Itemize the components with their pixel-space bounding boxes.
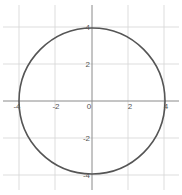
- y-tick: 4: [86, 23, 91, 32]
- grid: [3, 5, 179, 190]
- circle-plot: -4 -2 0 2 4 4 2 -2 -4: [0, 0, 182, 195]
- x-tick: 2: [128, 102, 133, 111]
- y-tick: -2: [83, 134, 91, 143]
- x-tick: 4: [164, 102, 169, 111]
- x-tick: -2: [52, 102, 60, 111]
- y-tick: 2: [86, 60, 91, 69]
- x-tick: 0: [87, 102, 92, 111]
- axes: [3, 5, 179, 190]
- x-tick-labels: -4 -2 0 2 4: [13, 102, 168, 111]
- y-tick: -4: [83, 171, 91, 180]
- x-tick: -4: [13, 102, 21, 111]
